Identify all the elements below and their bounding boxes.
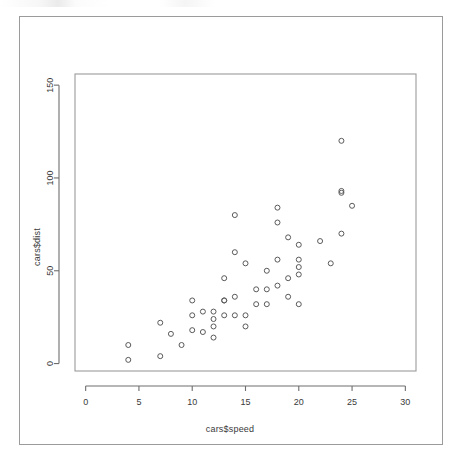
data-point: [296, 272, 301, 277]
y-tick-label: 100: [45, 170, 55, 185]
data-point: [126, 357, 131, 362]
y-tick-label: 0: [45, 361, 55, 366]
data-points: [126, 138, 355, 362]
data-point: [200, 309, 205, 314]
data-point: [168, 331, 173, 336]
data-point: [286, 235, 291, 240]
x-tick-label: 0: [83, 397, 88, 407]
plot-canvas: 051015202530050100150: [20, 17, 442, 444]
x-tick-label: 5: [136, 397, 141, 407]
x-axis: 051015202530: [83, 386, 410, 407]
scatter-plot-screenshot: 051015202530050100150 cars$dist cars$spe…: [0, 0, 460, 464]
data-point: [158, 320, 163, 325]
data-point: [243, 261, 248, 266]
x-tick-label: 15: [240, 397, 250, 407]
data-point: [211, 309, 216, 314]
plot-box: [75, 74, 416, 371]
x-tick-label: 20: [294, 397, 304, 407]
data-point: [232, 294, 237, 299]
data-point: [296, 242, 301, 247]
x-tick-label: 10: [187, 397, 197, 407]
y-axis: 050100150: [45, 78, 59, 366]
data-point: [296, 302, 301, 307]
data-point: [275, 283, 280, 288]
data-point: [190, 298, 195, 303]
y-tick-label: 150: [45, 78, 55, 93]
data-point: [232, 213, 237, 218]
data-point: [232, 250, 237, 255]
data-point: [328, 261, 333, 266]
data-point: [200, 330, 205, 335]
data-point: [264, 302, 269, 307]
data-point: [339, 138, 344, 143]
data-point: [211, 317, 216, 322]
data-point: [254, 302, 259, 307]
x-tick-label: 30: [400, 397, 410, 407]
data-point: [264, 287, 269, 292]
data-point: [211, 335, 216, 340]
data-point: [254, 287, 259, 292]
data-point: [179, 343, 184, 348]
y-axis-title: cars$dist: [32, 207, 42, 287]
x-axis-title: cars$speed: [0, 424, 460, 434]
data-point: [243, 313, 248, 318]
data-point: [126, 343, 131, 348]
data-point: [339, 231, 344, 236]
y-tick-label: 50: [45, 266, 55, 276]
data-point: [350, 203, 355, 208]
data-point: [211, 324, 216, 329]
data-point: [158, 354, 163, 359]
data-point: [275, 220, 280, 225]
data-point: [190, 328, 195, 333]
scan-artifact: [0, 0, 460, 7]
x-tick-label: 25: [347, 397, 357, 407]
data-point: [286, 294, 291, 299]
data-point: [222, 313, 227, 318]
data-point: [232, 313, 237, 318]
data-point: [296, 265, 301, 270]
data-point: [286, 276, 291, 281]
data-point: [264, 268, 269, 273]
data-point: [275, 257, 280, 262]
data-point: [275, 205, 280, 210]
data-point: [318, 239, 323, 244]
data-point: [243, 324, 248, 329]
data-point: [296, 257, 301, 262]
data-point: [222, 276, 227, 281]
data-point: [222, 298, 227, 303]
data-point: [190, 313, 195, 318]
figure-frame: 051015202530050100150 cars$dist: [19, 16, 443, 445]
